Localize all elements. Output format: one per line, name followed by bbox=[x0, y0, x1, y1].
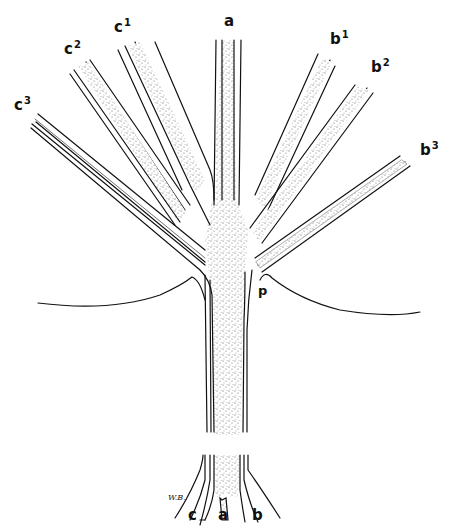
label-c1-base: c bbox=[114, 18, 123, 36]
label-b2-base: b bbox=[371, 58, 382, 76]
label-b3-sup: 3 bbox=[432, 140, 439, 151]
label-b1-base: b bbox=[330, 30, 341, 48]
label-b2-sup: 2 bbox=[383, 57, 390, 68]
branching-diagram bbox=[0, 0, 453, 531]
label-a-base: a bbox=[224, 12, 234, 30]
label-c1: c1 bbox=[114, 20, 131, 35]
artist-signature: W.B. bbox=[168, 493, 186, 502]
label-bottom-a: a bbox=[218, 508, 228, 523]
label-c2: c2 bbox=[64, 42, 81, 57]
label-a: a bbox=[224, 14, 234, 29]
label-b3: b3 bbox=[420, 143, 439, 158]
label-c2-sup: 2 bbox=[74, 39, 81, 50]
label-p: p bbox=[258, 284, 267, 297]
label-c1-sup: 1 bbox=[124, 17, 131, 28]
label-c3: c3 bbox=[14, 98, 31, 113]
core-stipple-lower bbox=[214, 455, 240, 497]
label-b1-sup: 1 bbox=[342, 29, 349, 40]
label-b2: b2 bbox=[371, 60, 390, 75]
label-b1: b1 bbox=[330, 32, 349, 47]
label-c3-base: c bbox=[14, 96, 23, 114]
label-bottom-b: b bbox=[252, 508, 263, 523]
label-c2-base: c bbox=[64, 40, 73, 58]
label-c3-sup: 3 bbox=[24, 95, 31, 106]
label-bottom-c: c bbox=[188, 508, 197, 523]
label-b3-base: b bbox=[420, 141, 431, 159]
core-stipple-upper bbox=[205, 40, 248, 435]
